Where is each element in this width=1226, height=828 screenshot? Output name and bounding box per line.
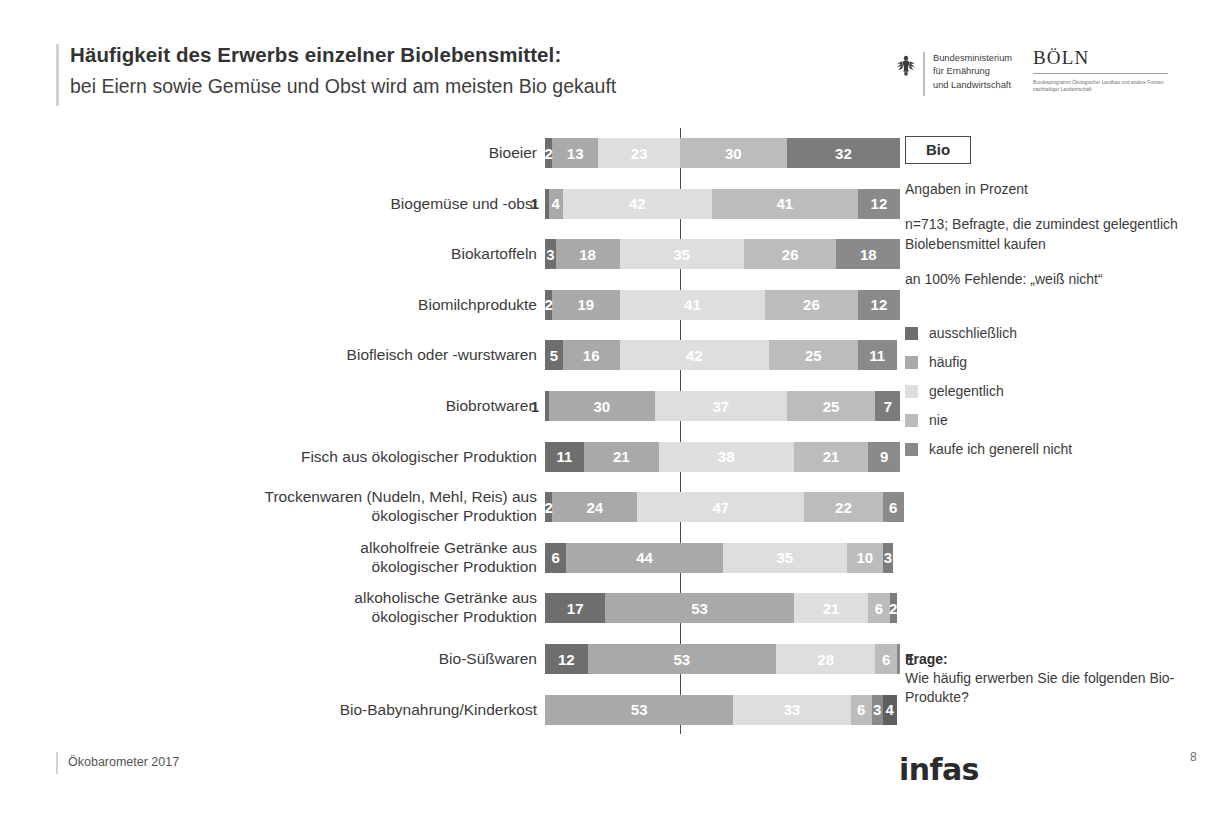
row-category-label: alkoholfreie Getränke ausökologischer Pr… — [0, 539, 545, 577]
row-label-line: Biogemüse und -obst — [0, 194, 537, 213]
bar-segment-value: 42 — [629, 195, 646, 212]
chart-row: Bio-Babynahrung/Kinderkost5333634 — [0, 695, 905, 725]
bar-segment: 4 — [883, 695, 897, 725]
row-category-label: Biofleisch oder -wurstwaren — [0, 346, 545, 365]
bar-segment-value: 6 — [889, 499, 897, 516]
bar-segment-value: 11 — [557, 448, 573, 465]
bar-segment: 42 — [620, 340, 769, 370]
bar-segment-value: 18 — [860, 246, 877, 263]
bar-segment-value: 25 — [823, 398, 840, 415]
question-label: Frage: — [905, 651, 948, 667]
bar-segment: 25 — [787, 391, 876, 421]
bar-segment: 6 — [851, 695, 872, 725]
stacked-bar: 318352618 — [545, 239, 900, 269]
bar-segment: 12 — [858, 189, 901, 219]
bar-segment: 35 — [723, 543, 847, 573]
legend-label: kaufe ich generell nicht — [929, 441, 1072, 457]
bar-segment-value: 12 — [871, 296, 888, 313]
bar-segment-value: 2 — [889, 600, 897, 617]
chart-row: Bio-Süßwaren12532861 — [0, 644, 905, 674]
question-block: Frage: Wie häufig erwerben Sie die folge… — [905, 650, 1205, 708]
info-panel: Bio Angaben in Prozent n=713; Befragte, … — [905, 128, 1205, 470]
bar-segment: 53 — [605, 593, 793, 623]
bar-segment: 47 — [637, 492, 804, 522]
bar-segment: 25 — [769, 340, 858, 370]
bar-segment-value: 9 — [880, 448, 888, 465]
bar-segment: 21 — [794, 442, 869, 472]
bar-segment: 6 — [883, 492, 904, 522]
legend-item: häufig — [905, 354, 1205, 370]
federal-eagle-icon — [896, 53, 916, 77]
bar-segment: 2 — [545, 290, 552, 320]
stacked-bar: 5333634 — [545, 695, 897, 725]
bar-segment: 13 — [552, 138, 598, 168]
stacked-bar: 12532861 — [545, 644, 900, 674]
bar-segment: 9 — [868, 442, 900, 472]
bar-segment-value: 6 — [882, 651, 890, 668]
bar-segment-value: 30 — [593, 398, 610, 415]
bar-segment: 18 — [556, 239, 620, 269]
bar-segment-value: 16 — [583, 347, 600, 364]
row-category-label: Bio-Süßwaren — [0, 650, 545, 669]
bar-segment-value: 6 — [857, 701, 865, 718]
bar-segment-value: 18 — [579, 246, 596, 263]
bar-segment-value: 53 — [691, 600, 708, 617]
bar-segment-value: 26 — [782, 246, 799, 263]
bar-segment-value: 35 — [776, 549, 793, 566]
bar-segment: 18 — [836, 239, 900, 269]
bar-segment: 10 — [847, 543, 883, 573]
bar-segment: 35 — [620, 239, 744, 269]
chart-row: alkoholische Getränke ausökologischer Pr… — [0, 593, 905, 623]
bar-segment-value: 6 — [551, 549, 559, 566]
row-label-line: Bio-Babynahrung/Kinderkost — [0, 700, 537, 719]
bar-segment: 12 — [545, 644, 588, 674]
bar-segment-value: 2 — [544, 499, 552, 516]
bar-segment-value: 2 — [544, 145, 552, 162]
bar-segment-value: 30 — [725, 145, 742, 162]
page-number: 8 — [1190, 750, 1197, 764]
bar-segment-value: 42 — [686, 347, 703, 364]
base-note: n=713; Befragte, die zumindest gelegentl… — [905, 215, 1205, 254]
bar-segment: 19 — [552, 290, 620, 320]
chart-row: Biomilchprodukte219412612 — [0, 290, 905, 320]
bar-segment: 53 — [588, 644, 776, 674]
title-main: Häufigkeit des Erwerbs einzelner Biolebe… — [70, 40, 860, 69]
bar-segment-value: 1 — [531, 189, 545, 219]
bar-segment-value: 6 — [875, 600, 883, 617]
bar-segment: 21 — [584, 442, 659, 472]
stacked-bar: 516422511 — [545, 340, 897, 370]
bar-segment: 3 — [883, 543, 894, 573]
bar-segment-value: 44 — [636, 549, 653, 566]
bar-segment: 33 — [733, 695, 850, 725]
bar-segment: 44 — [566, 543, 722, 573]
row-label-line: Bio-Süßwaren — [0, 650, 537, 669]
bar-segment: 22 — [804, 492, 882, 522]
bio-badge: Bio — [905, 136, 971, 164]
chart-legend: ausschließlichhäufiggelegentlichniekaufe… — [905, 325, 1205, 457]
bar-segment-value: 12 — [871, 195, 888, 212]
row-category-label: alkoholische Getränke ausökologischer Pr… — [0, 589, 545, 627]
bar-segment-value: 19 — [578, 296, 595, 313]
boeln-wordmark: BÖLN — [1033, 48, 1168, 67]
stacked-bar: 112138219 — [545, 442, 900, 472]
row-category-label: Biokartoffeln — [0, 245, 545, 264]
bar-segment: 28 — [776, 644, 875, 674]
units-note: Angaben in Prozent — [905, 180, 1205, 199]
chart-row: Bioeier213233032 — [0, 138, 905, 168]
bar-segment-value: 26 — [803, 296, 820, 313]
row-label-line: Bioeier — [0, 144, 537, 163]
bar-segment: 7 — [875, 391, 900, 421]
bar-segment: 2 — [545, 138, 552, 168]
legend-item: gelegentlich — [905, 383, 1205, 399]
bar-segment-value: 47 — [713, 499, 730, 516]
bar-segment-value: 35 — [673, 246, 690, 263]
legend-swatch — [905, 356, 918, 369]
bmel-line-2: für Ernährung — [933, 65, 1012, 78]
legend-label: ausschließlich — [929, 325, 1017, 341]
stacked-bar: 13037257 — [545, 391, 900, 421]
row-category-label: Bioeier — [0, 144, 545, 163]
stacked-bar: 22447226 — [545, 492, 904, 522]
chart-row: Biokartoffeln318352618 — [0, 239, 905, 269]
title-accent-rule — [56, 44, 59, 106]
bmel-logo: Bundesministerium für Ernährung und Land… — [896, 52, 1012, 96]
